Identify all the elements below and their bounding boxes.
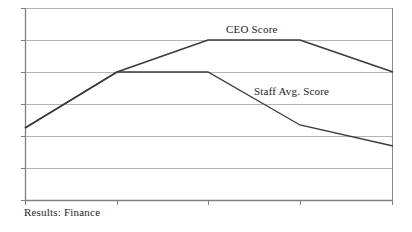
gridlines-group <box>25 9 393 169</box>
series-label-staff-avg-score: Staff Avg. Score <box>254 85 329 98</box>
chart-container: CEO Score Staff Avg. Score Results: Fina… <box>0 0 412 232</box>
y-axis-ticks <box>21 9 25 201</box>
line-chart-canvas <box>0 0 412 232</box>
series-label-ceo-score: CEO Score <box>226 23 278 36</box>
chart-caption: Results: Finance <box>24 205 100 219</box>
series-line-staff-avg-score <box>25 72 393 146</box>
series-line-ceo-score <box>25 40 393 128</box>
